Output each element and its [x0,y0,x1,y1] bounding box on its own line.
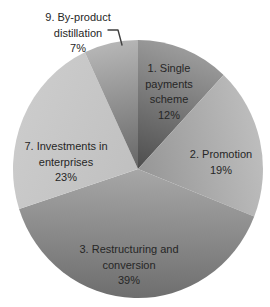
pie-chart-canvas [0,0,270,307]
pie-chart: 9. By-product distillation 7% 1. Single … [0,0,270,307]
